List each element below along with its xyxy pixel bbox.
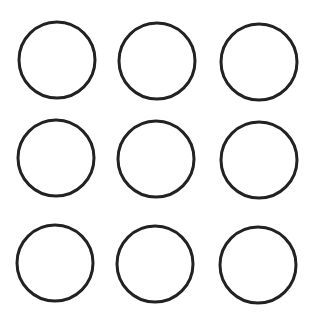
- circle-r2-c3: [221, 122, 297, 198]
- circles-group: [17, 22, 297, 303]
- circle-grid: [0, 0, 315, 322]
- circle-r1-c3: [221, 24, 297, 100]
- circle-r3-c2: [117, 226, 193, 302]
- circle-r2-c1: [18, 120, 94, 196]
- circle-r3-c1: [17, 225, 93, 301]
- circle-r2-c2: [118, 121, 194, 197]
- circle-r1-c2: [119, 23, 195, 99]
- circle-r3-c3: [220, 227, 296, 303]
- circle-r1-c1: [19, 22, 95, 98]
